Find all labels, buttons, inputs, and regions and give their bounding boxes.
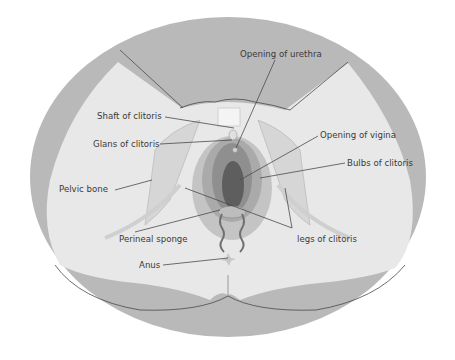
pubic-symphysis bbox=[218, 108, 240, 126]
label-anus: Anus bbox=[139, 260, 161, 270]
vaginal-opening bbox=[222, 161, 244, 209]
label-bulbs-of-clitoris: Bulbs of clitoris bbox=[347, 158, 413, 168]
clitoris-glans bbox=[229, 130, 237, 140]
label-shaft-of-clitoris: Shaft of clitoris bbox=[97, 111, 162, 121]
label-glans-of-clitoris: Glans of clitoris bbox=[93, 139, 160, 149]
label-legs-of-clitoris: legs of clitoris bbox=[297, 234, 357, 244]
label-pelvic-bone: Pelvic bone bbox=[59, 184, 108, 194]
urethra bbox=[233, 148, 238, 153]
anatomy-diagram: Opening of urethra Shaft of clitoris Gla… bbox=[0, 0, 455, 360]
label-opening-of-vigina: Opening of vigina bbox=[320, 130, 396, 140]
perineal-sponge-shape bbox=[218, 206, 246, 218]
label-opening-of-urethra: Opening of urethra bbox=[240, 49, 322, 59]
label-perineal-sponge: Perineal sponge bbox=[119, 234, 188, 244]
